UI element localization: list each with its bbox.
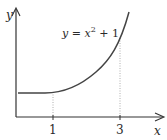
tick-label-1: 1 [49,123,57,137]
tick-label-3: 3 [116,123,124,137]
eq-equals: = [68,27,84,40]
function-graph: y x 1 3 y = x2 + 1 [0,0,167,140]
equation-label: y = x2 + 1 [61,25,119,40]
eq-rest: + 1 [96,27,119,40]
x-axis-label: x [154,124,161,138]
function-curve [18,12,129,93]
y-axis-label: y [5,8,13,22]
